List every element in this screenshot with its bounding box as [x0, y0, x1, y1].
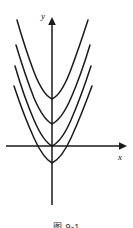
x-axis-arrow-icon: [119, 142, 127, 150]
parabola-family-plot: y x: [0, 0, 133, 228]
figure-container: y x 图 9-1: [0, 0, 133, 228]
x-axis-label: x: [117, 152, 122, 162]
figure-caption: 图 9-1: [0, 220, 133, 228]
y-axis-arrow-icon: [48, 17, 56, 25]
parabola-curve-2: [16, 45, 90, 124]
y-axis-label: y: [40, 11, 45, 21]
